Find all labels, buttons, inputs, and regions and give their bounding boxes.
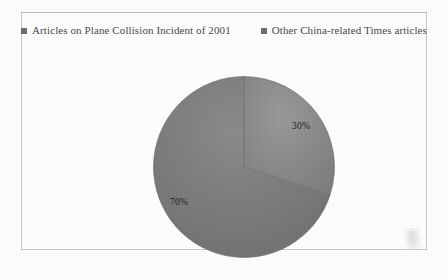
legend-item-plane-collision[interactable]: Articles on Plane Collision Incident of …: [21, 25, 231, 36]
chart-frame: Articles on Plane Collision Incident of …: [21, 12, 427, 250]
legend-item-label: Other China-related Times articles: [272, 25, 427, 36]
legend-item-other-china-related[interactable]: Other China-related Times articles: [261, 25, 427, 36]
legend-item-label: Articles on Plane Collision Incident of …: [32, 25, 231, 36]
pie-chart: 30% 70%: [153, 76, 335, 258]
pie-slice-label-70: 70%: [170, 198, 188, 208]
chart-legend: Articles on Plane Collision Incident of …: [22, 25, 426, 36]
square-marker-icon: [261, 28, 267, 34]
figure-page: Articles on Plane Collision Incident of …: [0, 0, 448, 280]
square-marker-icon: [21, 28, 27, 34]
pie-chart-svg: [153, 76, 335, 258]
pie-slice-label-30: 30%: [292, 122, 310, 132]
